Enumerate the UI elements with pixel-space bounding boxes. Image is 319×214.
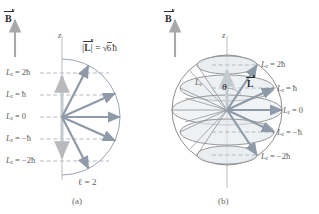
lz-label-plus-1: Lz = ħ (277, 84, 297, 94)
lz-label-zero: Lz = 0 (283, 106, 303, 116)
lz-value: = 2ħ (270, 59, 285, 69)
magnitude-label-L: L (84, 44, 90, 54)
lz-label-plus-2: Lz = 2ħ (6, 68, 30, 78)
lz-sub: z (11, 115, 13, 121)
vector-m-plus-1 (62, 93, 115, 117)
caption-a: (a) (72, 197, 82, 206)
lz-value: = −ħ (286, 127, 302, 137)
lz-sub: z (11, 159, 13, 165)
lz-label-minus-1: Lz = −ħ (6, 134, 31, 144)
b-field-label: B (5, 14, 12, 24)
lz-label-plus-1: Lz = ħ (6, 90, 26, 100)
magnitude-sqrt: √6 (103, 43, 112, 53)
b-field-label-text: B (5, 14, 12, 24)
lz-sub: z (11, 137, 13, 143)
magnitude-label: |L| = √6ħ (82, 42, 117, 54)
magnitude-hbar: ħ (112, 43, 117, 53)
z-axis-label: z (222, 31, 225, 40)
lz-sub: z (282, 131, 284, 137)
lz-sub: z (282, 87, 284, 93)
lz-component-sub: z (200, 81, 202, 87)
lz-value: = −2ħ (15, 155, 35, 165)
lz-value: = ħ (15, 89, 26, 99)
lz-label-plus-2: Lz = 2ħ (261, 60, 285, 70)
lz-value: = −ħ (15, 133, 31, 143)
panel-a: B z |L| = √6ħ Lz = 2ħ Lz = ħ Lz = 0 Lz =… (0, 0, 159, 214)
z-axis-label: z (58, 31, 61, 40)
theta-label: θ (222, 83, 227, 92)
b-field-label-text: B (165, 14, 172, 24)
panel-b: B z Lz θ L Lz = 2ħ Lz = ħ Lz = 0 Lz = −ħ… (160, 0, 319, 214)
lz-label-zero: Lz = 0 (6, 112, 26, 122)
lz-value: = 0 (15, 111, 26, 121)
magnitude-label-eq: = (95, 43, 100, 53)
b-field-label: B (165, 14, 172, 24)
lz-label-minus-1: Lz = −ħ (277, 128, 302, 138)
lz-component-label: Lz (195, 78, 202, 88)
lz-value: = 0 (292, 105, 303, 115)
lz-value: = ħ (286, 83, 297, 93)
lz-label-minus-2: Lz = −2ħ (6, 156, 35, 166)
lz-value: = 2ħ (15, 67, 30, 77)
lz-value: = −2ħ (270, 151, 290, 161)
vector-m-minus-1 (62, 117, 115, 141)
lz-sub: z (288, 109, 290, 115)
lz-sub: z (11, 93, 13, 99)
l-vector-label-text: L (247, 80, 253, 90)
caption-b: (b) (218, 197, 229, 206)
lz-sub: z (266, 155, 268, 161)
lz-sub: z (11, 71, 13, 77)
quantum-number-label: ℓ = 2 (78, 178, 96, 187)
lz-sub: z (266, 63, 268, 69)
l-vector-label: L (247, 80, 253, 90)
lz-label-minus-2: Lz = −2ħ (261, 152, 290, 162)
